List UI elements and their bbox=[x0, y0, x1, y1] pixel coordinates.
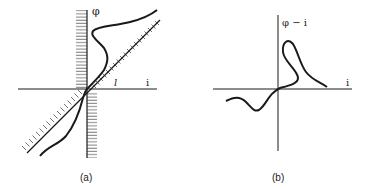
lower-hatched-wall bbox=[87, 89, 97, 158]
line-l-label: l bbox=[114, 78, 117, 88]
caption-b: (b) bbox=[272, 173, 284, 183]
curve-b bbox=[226, 41, 327, 110]
phi-minus-i-axis-label: φ − i bbox=[282, 18, 307, 28]
i-axis-label-a: i bbox=[146, 78, 149, 88]
i-axis-label-b: i bbox=[346, 78, 349, 88]
phi-axis-label: φ bbox=[92, 6, 100, 17]
upper-hatched-wall bbox=[76, 10, 87, 89]
curve-a bbox=[40, 10, 157, 156]
panel-b bbox=[213, 15, 352, 151]
diagram-canvas bbox=[0, 0, 365, 189]
panel-a bbox=[18, 10, 160, 158]
caption-a: (a) bbox=[80, 173, 92, 183]
